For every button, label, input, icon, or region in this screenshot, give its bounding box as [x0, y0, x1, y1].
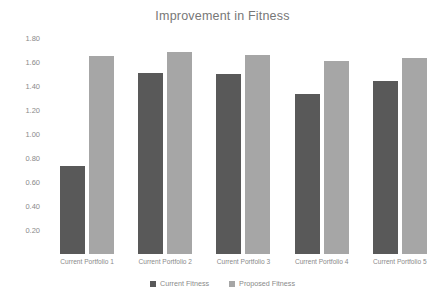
y-axis-tick: 1.40 — [25, 82, 40, 91]
bar-proposed-fitness[interactable] — [89, 56, 114, 254]
chart-title: Improvement in Fitness — [0, 9, 445, 23]
legend-item[interactable]: Current Fitness — [150, 279, 209, 288]
x-axis-label: Current Portfolio 2 — [126, 258, 204, 265]
bar-current-fitness[interactable] — [138, 73, 163, 254]
bar-current-fitness[interactable] — [216, 74, 241, 254]
x-axis-label: Current Portfolio 4 — [283, 258, 361, 265]
bar-proposed-fitness[interactable] — [402, 58, 427, 254]
y-axis-tick: 0.80 — [25, 154, 40, 163]
bar-current-fitness[interactable] — [60, 166, 85, 254]
bar-group — [126, 38, 204, 254]
y-axis-tick: 1.60 — [25, 58, 40, 67]
legend-label: Current Fitness — [160, 279, 209, 288]
bar-group — [283, 38, 361, 254]
legend-swatch-icon — [229, 281, 235, 287]
bar-proposed-fitness[interactable] — [167, 52, 192, 254]
x-axis-labels: Current Portfolio 1Current Portfolio 2Cu… — [48, 258, 439, 265]
bar-current-fitness[interactable] — [373, 81, 398, 254]
chart-legend: Current FitnessProposed Fitness — [0, 279, 445, 288]
bar-group — [204, 38, 282, 254]
y-axis-tick: 0.20 — [25, 226, 40, 235]
bar-current-fitness[interactable] — [295, 94, 320, 254]
bar-groups — [48, 38, 439, 254]
bar-chart: Improvement in Fitness 1.801.601.401.201… — [0, 0, 445, 301]
y-axis-tick: 1.80 — [25, 34, 40, 43]
y-axis-tick: 1.20 — [25, 106, 40, 115]
y-axis-tick: 0.40 — [25, 202, 40, 211]
bar-proposed-fitness[interactable] — [324, 61, 349, 254]
y-axis-tick: 1.00 — [25, 130, 40, 139]
legend-swatch-icon — [150, 281, 156, 287]
x-axis-label: Current Portfolio 5 — [361, 258, 439, 265]
y-axis: 1.801.601.401.201.000.800.600.400.20 — [0, 38, 44, 254]
x-axis-label: Current Portfolio 3 — [204, 258, 282, 265]
bar-group — [48, 38, 126, 254]
legend-item[interactable]: Proposed Fitness — [229, 279, 295, 288]
y-axis-tick: 0.60 — [25, 178, 40, 187]
bar-proposed-fitness[interactable] — [245, 55, 270, 254]
bar-group — [361, 38, 439, 254]
legend-label: Proposed Fitness — [239, 279, 295, 288]
x-axis-label: Current Portfolio 1 — [48, 258, 126, 265]
